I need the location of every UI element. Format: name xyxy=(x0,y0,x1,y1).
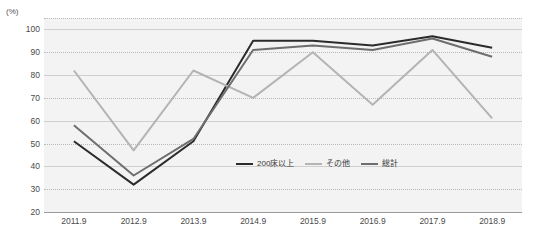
line-chart: (%) 2030405060708090100 2011.92012.92013… xyxy=(0,0,535,245)
plot-area xyxy=(44,18,522,212)
x-axis-tick-labels: 2011.92012.92013.92014.92015.92016.92017… xyxy=(44,216,522,236)
y-tick-label-60: 60 xyxy=(2,116,40,126)
x-tick-label-2013.9: 2013.9 xyxy=(180,216,206,226)
y-axis-tick-labels: 2030405060708090100 xyxy=(0,0,40,245)
y-tick-label-30: 30 xyxy=(2,184,40,194)
legend-label: 200床以上 xyxy=(257,160,294,168)
legend-label: 総計 xyxy=(382,160,398,168)
series-line-総計 xyxy=(74,39,492,176)
y-tick-label-50: 50 xyxy=(2,139,40,149)
y-tick-label-80: 80 xyxy=(2,70,40,80)
legend-swatch-icon xyxy=(361,163,378,166)
series-layer xyxy=(44,18,522,212)
legend-item-総計[interactable]: 総計 xyxy=(361,160,398,168)
x-tick-label-2015.9: 2015.9 xyxy=(300,216,326,226)
series-line-その他 xyxy=(74,50,492,150)
chart-legend: 200床以上その他総計 xyxy=(236,160,398,168)
legend-swatch-icon xyxy=(236,163,253,166)
x-tick-label-2011.9: 2011.9 xyxy=(61,216,86,226)
x-axis-line xyxy=(44,212,522,213)
x-tick-label-2012.9: 2012.9 xyxy=(121,216,147,226)
legend-label: その他 xyxy=(326,160,350,168)
legend-item-200床以上[interactable]: 200床以上 xyxy=(236,160,294,168)
y-tick-label-40: 40 xyxy=(2,161,40,171)
legend-swatch-icon xyxy=(305,163,322,166)
y-tick-label-90: 90 xyxy=(2,47,40,57)
y-tick-label-20: 20 xyxy=(2,207,40,217)
x-tick-label-2017.9: 2017.9 xyxy=(419,216,445,226)
legend-item-その他[interactable]: その他 xyxy=(305,160,350,168)
y-tick-label-100: 100 xyxy=(2,24,40,34)
x-tick-label-2016.9: 2016.9 xyxy=(360,216,386,226)
y-tick-label-70: 70 xyxy=(2,93,40,103)
x-tick-label-2018.9: 2018.9 xyxy=(479,216,505,226)
x-tick-label-2014.9: 2014.9 xyxy=(240,216,266,226)
